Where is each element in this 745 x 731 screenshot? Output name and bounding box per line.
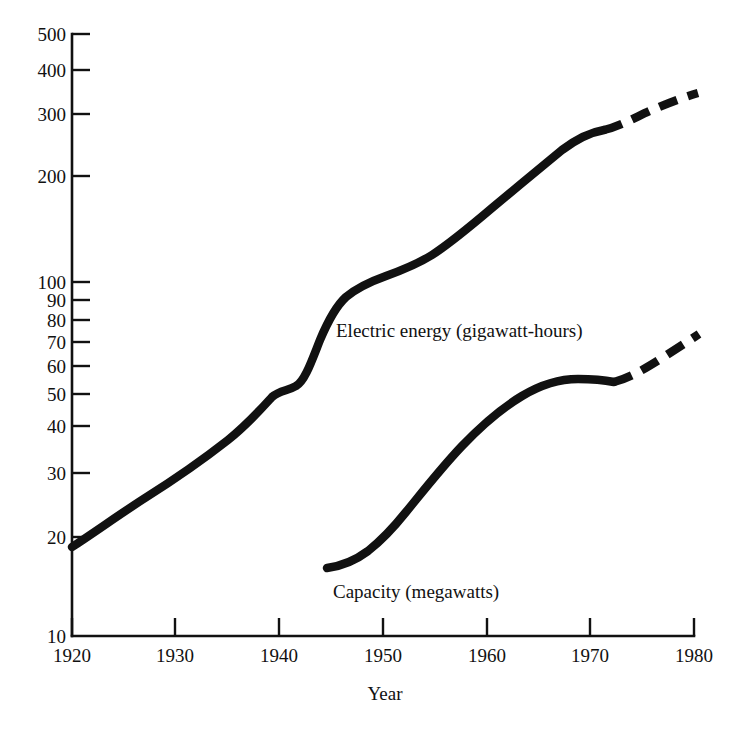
y-tick-label-40: 40 xyxy=(47,416,66,437)
y-tick-label-500: 500 xyxy=(38,24,67,45)
log-line-chart: 500 400 300 200 100 90 80 70 60 50 40 30… xyxy=(0,0,745,731)
y-tick-label-10: 10 xyxy=(47,626,66,647)
y-tick-label-60: 60 xyxy=(47,356,66,377)
chart-figure: 500 400 300 200 100 90 80 70 60 50 40 30… xyxy=(0,0,745,731)
x-tick-label-1950: 1950 xyxy=(364,645,402,666)
y-tick-label-400: 400 xyxy=(38,60,67,81)
y-tick-label-300: 300 xyxy=(38,104,67,125)
x-tick-label-1920: 1920 xyxy=(53,645,91,666)
y-tick-label-90: 90 xyxy=(47,290,66,311)
y-tick-label-200: 200 xyxy=(38,166,67,187)
y-tick-label-30: 30 xyxy=(47,463,66,484)
x-tick-label-1940: 1940 xyxy=(260,645,298,666)
y-tick-label-50: 50 xyxy=(47,384,66,405)
x-tick-label-1960: 1960 xyxy=(468,645,506,666)
x-tick-label-1930: 1930 xyxy=(156,645,194,666)
y-tick-label-20: 20 xyxy=(47,527,66,548)
capacity-label: Capacity (megawatts) xyxy=(333,581,499,603)
x-tick-label-1970: 1970 xyxy=(571,645,609,666)
x-tick-label-1980: 1980 xyxy=(675,645,713,666)
chart-background xyxy=(0,0,745,731)
y-tick-label-70: 70 xyxy=(47,332,66,353)
electric-energy-label: Electric energy (gigawatt-hours) xyxy=(336,320,583,342)
x-axis-title: Year xyxy=(367,683,403,704)
y-tick-label-80: 80 xyxy=(47,310,66,331)
